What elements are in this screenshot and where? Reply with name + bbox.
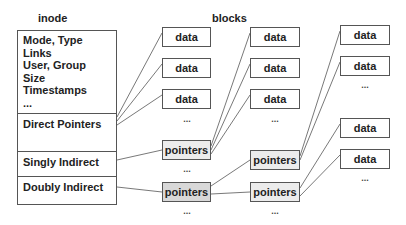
inode-mode-type: Mode, Type (23, 34, 116, 47)
pointer-block: pointers (250, 150, 300, 170)
blocks-title: blocks (212, 12, 247, 24)
data-block: data (250, 27, 300, 47)
ellipsis: ... (250, 206, 300, 216)
ellipsis: ... (162, 206, 212, 216)
inode-ellipsis: ... (23, 97, 116, 110)
data-block: data (162, 27, 211, 47)
inode-user-group: User, Group (23, 59, 116, 72)
ellipsis: ... (340, 173, 390, 183)
pointer-block: pointers (250, 182, 300, 202)
ellipsis: ... (162, 164, 212, 174)
data-block: data (250, 58, 300, 78)
pointer-block-singly: pointers (162, 140, 211, 160)
data-block: data (250, 89, 300, 109)
inode-singly-indirect: Singly Indirect (18, 151, 116, 176)
inode-direct-pointers: Direct Pointers (18, 113, 116, 151)
inode-doubly-indirect: Doubly Indirect (18, 176, 116, 206)
inode-links: Links (23, 47, 116, 60)
ellipsis: ... (162, 114, 212, 124)
inode-title: inode (38, 12, 67, 24)
inode-timestamps: Timestamps (23, 84, 116, 97)
inode-metadata: Mode, Type Links User, Group Size Timest… (18, 31, 116, 113)
pointer-block-doubly: pointers (162, 182, 211, 202)
ellipsis: ... (250, 114, 300, 124)
data-block: data (340, 118, 390, 138)
inode-box: Mode, Type Links User, Group Size Timest… (17, 30, 117, 205)
data-block: data (340, 56, 390, 76)
data-block: data (340, 149, 390, 169)
data-block: data (340, 25, 390, 45)
data-block: data (162, 89, 211, 109)
data-block: data (162, 58, 211, 78)
ellipsis: ... (340, 80, 390, 90)
inode-size: Size (23, 72, 116, 85)
